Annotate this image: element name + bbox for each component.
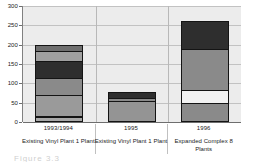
y-axis-tick-label: 250 xyxy=(8,22,18,28)
category-name-label: Existing Vinyl Plant 1 Plant xyxy=(95,138,168,146)
plot-area xyxy=(22,6,241,122)
category-name-label: Existing Vinyl Plant 1 Plant xyxy=(22,138,95,146)
category-year-label: 1993/1994 xyxy=(22,124,95,132)
y-axis-tick-label: 100 xyxy=(8,80,18,86)
category-label-group: 1995Existing Vinyl Plant 1 Plant xyxy=(95,124,168,146)
y-axis-tick-label: 0 xyxy=(15,119,18,125)
bar-stack xyxy=(181,21,229,122)
gridline xyxy=(23,6,241,7)
category-separator xyxy=(96,6,97,122)
bar-segment xyxy=(36,61,82,78)
bar-segment xyxy=(36,95,82,116)
y-axis-tick-label: 150 xyxy=(8,61,18,67)
bar-segment xyxy=(36,51,82,61)
category-label-group: 1996Expanded Complex 8 Plants xyxy=(167,124,240,153)
bar-segment xyxy=(36,117,82,121)
category-name-label: Expanded Complex 8 Plants xyxy=(167,138,240,153)
bar-segment xyxy=(182,22,228,49)
category-separator xyxy=(168,6,169,122)
bar-stack xyxy=(35,45,83,122)
category-label-group: 1993/1994Existing Vinyl Plant 1 Plant xyxy=(22,124,95,146)
category-year-label: 1995 xyxy=(95,124,168,132)
stacked-bar-chart-figure: 050100150200250300 1993/1994Existing Vin… xyxy=(0,0,253,162)
bar-segment xyxy=(109,101,155,121)
category-year-label: 1996 xyxy=(167,124,240,132)
y-axis-tick-mark xyxy=(19,122,22,123)
y-axis: 050100150200250300 xyxy=(0,0,22,128)
axis-baseline xyxy=(23,122,241,123)
bar-stack xyxy=(108,92,156,122)
bar-segment xyxy=(182,90,228,103)
y-axis-tick-label: 50 xyxy=(11,100,18,106)
bar-segment xyxy=(182,49,228,90)
bar-segment xyxy=(36,78,82,95)
figure-caption: Figure 3.3 xyxy=(14,155,60,162)
bar-segment xyxy=(182,103,228,121)
y-axis-tick-label: 200 xyxy=(8,42,18,48)
y-axis-tick-label: 300 xyxy=(8,3,18,9)
